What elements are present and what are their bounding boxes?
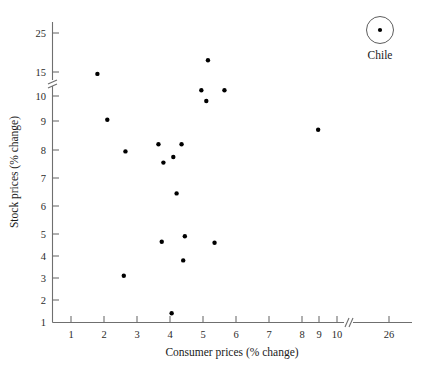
x-tick-label-2: 2 — [101, 329, 106, 340]
data-points-layer — [95, 58, 320, 315]
x-tick-label-6: 6 — [233, 329, 238, 340]
data-point — [169, 311, 173, 315]
y-tick-label-4: 4 — [41, 251, 47, 262]
chile-data-point — [378, 28, 382, 32]
scatter-plot-figure: 25 15 10 9 8 7 6 5 4 — [0, 0, 422, 368]
data-point — [206, 58, 210, 62]
x-axis-break-mark-1 — [345, 318, 349, 327]
data-point — [316, 128, 320, 132]
x-tick-label-8: 8 — [299, 329, 304, 340]
y-axis-break-mark-1 — [48, 80, 57, 84]
data-point — [179, 142, 183, 146]
data-point — [105, 118, 109, 122]
x-tick-label-4: 4 — [167, 329, 173, 340]
data-point — [212, 241, 216, 245]
data-point — [222, 88, 226, 92]
chart-canvas: 25 15 10 9 8 7 6 5 4 — [0, 0, 422, 368]
data-point — [174, 191, 178, 195]
chile-label: Chile — [368, 49, 393, 61]
x-tick-label-3: 3 — [134, 329, 139, 340]
data-point — [204, 99, 208, 103]
x-axis-title: Consumer prices (% change) — [165, 346, 298, 359]
x-tick-label-26: 26 — [384, 329, 395, 340]
x-axis-break-mark-2 — [349, 318, 353, 327]
y-tick-label-2: 2 — [41, 295, 46, 306]
data-point — [156, 142, 160, 146]
y-tick-label-6: 6 — [41, 201, 46, 212]
x-tick-label-1: 1 — [68, 329, 73, 340]
data-point — [171, 155, 175, 159]
data-point — [123, 149, 127, 153]
y-tick-label-1: 1 — [41, 317, 46, 328]
y-tick-label-9: 9 — [41, 116, 46, 127]
x-tick-label-10: 10 — [332, 329, 343, 340]
data-point — [95, 72, 99, 76]
y-tick-label-15: 15 — [36, 67, 47, 78]
data-point — [122, 274, 126, 278]
data-point — [183, 234, 187, 238]
y-tick-label-8: 8 — [41, 145, 46, 156]
data-point — [181, 258, 185, 262]
y-axis — [48, 22, 57, 323]
x-tick-label-5: 5 — [200, 329, 205, 340]
x-axis — [53, 318, 413, 327]
y-tick-label-10: 10 — [36, 91, 47, 102]
y-tick-label-7: 7 — [41, 173, 46, 184]
x-tick-group: 1 2 3 4 5 6 7 8 9 10 26 — [68, 316, 394, 340]
y-tick-group: 25 15 10 9 8 7 6 5 4 — [36, 28, 60, 328]
data-point — [161, 160, 165, 164]
data-point — [199, 88, 203, 92]
x-tick-label-9: 9 — [316, 329, 321, 340]
y-tick-label-3: 3 — [41, 273, 46, 284]
chile-annotation: Chile — [367, 17, 394, 62]
y-axis-title: Stock prices (% change) — [8, 116, 21, 228]
x-tick-label-7: 7 — [266, 329, 271, 340]
data-point — [160, 240, 164, 244]
y-tick-label-5: 5 — [41, 229, 46, 240]
y-tick-label-25: 25 — [36, 28, 47, 39]
